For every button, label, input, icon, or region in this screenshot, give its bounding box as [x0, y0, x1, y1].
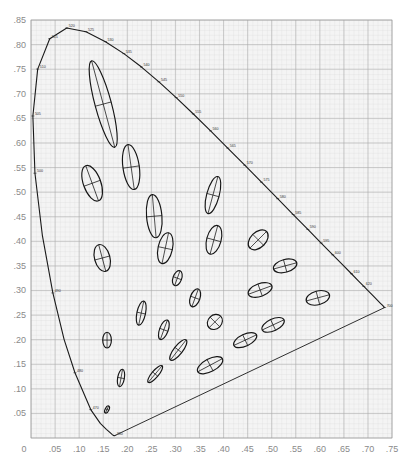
wavelength-label: 490 [55, 289, 61, 293]
wavelength-label: 575 [263, 178, 269, 182]
x-tick-label: .30 [169, 444, 182, 454]
wavelength-label: 620 [366, 282, 372, 286]
x-tick-label: .65 [338, 444, 351, 454]
x-tick-label: .75 [386, 444, 399, 454]
wavelength-label: 700 [387, 304, 393, 308]
wavelength-label: 530 [107, 38, 113, 42]
x-tick-label: .55 [289, 444, 302, 454]
x-tick-label: .05 [49, 444, 62, 454]
y-tick-label: .30 [13, 285, 26, 295]
x-tick-label: .50 [265, 444, 278, 454]
wavelength-label: 560 [213, 127, 219, 131]
y-tick-label: .05 [13, 408, 26, 418]
wavelength-label: 570 [247, 161, 253, 165]
wavelength-label: 520 [69, 24, 75, 28]
x-tick-label: .25 [145, 444, 158, 454]
wavelength-label: 505 [35, 112, 41, 116]
y-tick-label: .45 [13, 212, 26, 222]
wavelength-label: 595 [323, 239, 329, 243]
x-tick-label: .10 [73, 444, 86, 454]
y-tick-label: .35 [13, 261, 26, 271]
y-tick-label: .55 [13, 163, 26, 173]
y-tick-label: .65 [13, 113, 26, 123]
y-tick-label: .15 [13, 359, 26, 369]
x-tick-label: .45 [241, 444, 254, 454]
y-tick-label: .25 [13, 310, 26, 320]
x-tick-label: .15 [97, 444, 110, 454]
wavelength-label: 510 [40, 65, 46, 69]
wavelength-label: 540 [144, 63, 150, 67]
x-tick-label: 0 [21, 444, 26, 454]
y-tick-label: .40 [13, 236, 26, 246]
color-ellipse [103, 332, 112, 348]
wavelength-label: 380 [117, 432, 123, 436]
wavelength-label: 480 [77, 369, 83, 373]
y-tick-label: .60 [13, 138, 26, 148]
y-tick-label: .85 [13, 15, 26, 25]
wavelength-label: 550 [178, 94, 184, 98]
wavelength-label: 500 [37, 169, 43, 173]
y-tick-label: .70 [13, 89, 26, 99]
wavelength-label: 470 [93, 406, 99, 410]
wavelength-label: 515 [52, 35, 58, 39]
wavelength-label: 600 [335, 251, 341, 255]
wavelength-label: 610 [353, 270, 359, 274]
y-axis-tick-labels: .05.10.15.20.25.30.35.40.45.50.55.60.65.… [13, 15, 26, 418]
x-tick-label: .35 [193, 444, 206, 454]
chromaticity-chart: 3804704804905005055105155205255305355405… [0, 0, 412, 463]
wavelength-label: 525 [88, 28, 94, 32]
wavelength-label: 585 [295, 211, 301, 215]
y-tick-label: .80 [13, 40, 26, 50]
x-tick-label: .70 [362, 444, 375, 454]
x-axis-tick-labels: 0.05.10.15.20.25.30.35.40.45.50.55.60.65… [21, 444, 398, 454]
y-tick-label: .50 [13, 187, 26, 197]
wavelength-label: 565 [230, 144, 236, 148]
y-tick-label: .75 [13, 64, 26, 74]
x-tick-label: .60 [314, 444, 327, 454]
x-tick-label: .20 [121, 444, 134, 454]
wavelength-label: 555 [195, 110, 201, 114]
wavelength-label: 590 [310, 225, 316, 229]
wavelength-label: 545 [161, 78, 167, 82]
y-tick-label: .20 [13, 335, 26, 345]
wavelength-label: 535 [126, 50, 132, 54]
wavelength-label: 580 [280, 195, 286, 199]
y-tick-label: .10 [13, 384, 26, 394]
x-tick-label: .40 [217, 444, 230, 454]
